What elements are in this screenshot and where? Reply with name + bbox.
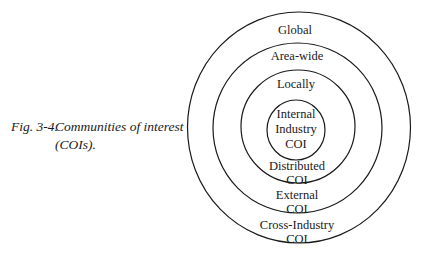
label-cross-industry-coi: COI (286, 232, 308, 246)
label-internal: Internal (277, 107, 316, 121)
label-cross-industry: Cross-Industry (260, 218, 335, 232)
label-locally: Locally (277, 77, 316, 91)
label-area-wide: Area-wide (271, 49, 324, 63)
label-industry: Industry (275, 122, 317, 136)
coi-diagram: Global Area-wide Locally Internal Indust… (0, 0, 428, 260)
label-distributed: Distributed (269, 159, 326, 173)
label-external-coi: COI (286, 202, 308, 216)
label-external: External (276, 188, 319, 202)
label-distributed-coi: COI (286, 173, 308, 187)
label-inner-coi: COI (285, 137, 307, 151)
label-global: Global (278, 23, 313, 37)
